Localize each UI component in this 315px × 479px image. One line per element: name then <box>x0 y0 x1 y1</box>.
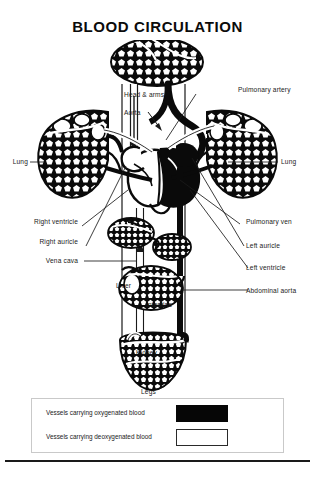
legend-label-oxygenated: Vessels carrying oxygenated blood <box>46 409 145 416</box>
label-pulmonary-vein: Pulmonary ven <box>246 219 292 226</box>
page-canvas: BLOOD CIRCULATION <box>0 0 315 479</box>
legend-swatch-oxygenated <box>176 405 228 422</box>
heart <box>122 143 200 213</box>
legend-row-oxygenated: Vessels carrying oxygenated blood <box>32 403 285 425</box>
label-head-and-arms: Head & arms <box>124 92 164 99</box>
label-right-auricle: Right auricle <box>0 239 78 246</box>
label-right-ventricle: Right ventricle <box>0 219 78 226</box>
legs-capillaries <box>114 326 194 396</box>
label-pulmonary-artery: Pulmonary artery <box>238 87 291 94</box>
label-lung-right: Lung <box>0 159 28 166</box>
intestine-organ <box>150 232 196 264</box>
lung-left-anatomical <box>192 100 282 200</box>
label-aorta: Aorta <box>124 110 141 117</box>
page-title: BLOOD CIRCULATION <box>0 18 315 35</box>
label-vena-cava: Vena cava <box>0 258 78 265</box>
liver-organ <box>106 216 158 252</box>
legend-row-deoxygenated: Vessels carrying deoxygenated blood <box>32 427 285 449</box>
legend: Vessels carrying oxygenated blood Vessel… <box>31 398 284 453</box>
legend-label-deoxygenated: Vessels carrying deoxygenated blood <box>46 433 152 440</box>
label-lung-left: Lung <box>281 159 296 166</box>
label-left-ventricle: Left ventricle <box>246 265 285 272</box>
head-and-arms-capillaries <box>108 40 208 88</box>
label-kidney: Kidney <box>136 350 157 357</box>
legend-swatch-deoxygenated <box>176 429 228 446</box>
label-liver: Liver <box>116 283 131 290</box>
page-bottom-rule <box>5 460 310 462</box>
label-legs: Legs <box>141 389 156 396</box>
label-left-auricle: Left auricle <box>246 243 280 250</box>
label-intestine: Intestine <box>146 302 172 309</box>
lung-right-anatomical <box>36 100 122 200</box>
leader-left-ventricle <box>190 190 248 268</box>
label-abdominal-aorta: Abdominal aorta <box>246 288 296 295</box>
